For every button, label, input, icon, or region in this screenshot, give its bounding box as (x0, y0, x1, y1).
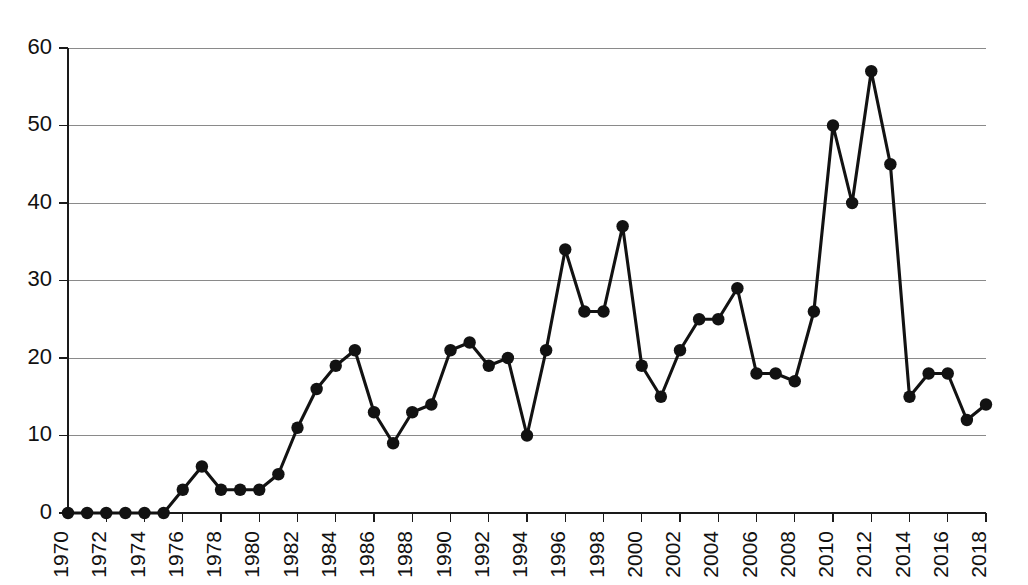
chart-canvas: 0102030405060 19701972197419761978198019… (0, 0, 1028, 585)
x-tick-label-1994: 1994 (508, 531, 531, 578)
data-point-1981 (272, 468, 284, 480)
x-tick-label-1986: 1986 (355, 531, 378, 578)
data-point-1989 (425, 398, 437, 410)
data-point-1992 (483, 360, 495, 372)
gridlines (68, 48, 986, 436)
data-point-1971 (81, 507, 93, 519)
x-tick-label-2000: 2000 (623, 531, 646, 578)
x-tick-label-1982: 1982 (279, 531, 302, 578)
data-point-2015 (922, 367, 934, 379)
y-axis (59, 48, 68, 513)
y-tick-label-60: 60 (28, 34, 52, 59)
data-point-1980 (253, 484, 265, 496)
x-tick-label-2006: 2006 (738, 531, 761, 578)
x-tick-label-1998: 1998 (585, 531, 608, 578)
x-tick-label-1980: 1980 (240, 531, 263, 578)
data-point-1983 (310, 383, 322, 395)
x-tick-label-2002: 2002 (661, 531, 684, 578)
x-tick-label-2012: 2012 (852, 531, 875, 578)
data-point-1978 (215, 484, 227, 496)
data-point-1988 (406, 406, 418, 418)
x-tick-label-2014: 2014 (891, 531, 914, 578)
data-point-1979 (234, 484, 246, 496)
data-points (62, 65, 992, 519)
data-point-1977 (196, 460, 208, 472)
data-point-2004 (712, 313, 724, 325)
data-point-2012 (865, 65, 877, 77)
y-tick-label-50: 50 (28, 111, 52, 136)
x-tick-label-1976: 1976 (164, 531, 187, 578)
data-point-2013 (884, 158, 896, 170)
y-tick-label-30: 30 (28, 266, 52, 291)
data-point-1972 (100, 507, 112, 519)
x-tick-label-2010: 2010 (814, 531, 837, 578)
y-tick-labels: 0102030405060 (28, 34, 52, 524)
data-point-1982 (291, 422, 303, 434)
x-tick-label-1990: 1990 (432, 531, 455, 578)
series-line (68, 71, 986, 513)
data-point-1991 (463, 336, 475, 348)
data-point-2018 (980, 398, 992, 410)
line-chart: 0102030405060 19701972197419761978198019… (0, 0, 1028, 585)
y-tick-label-0: 0 (40, 499, 52, 524)
data-point-1999 (616, 220, 628, 232)
x-tick-label-1974: 1974 (126, 531, 149, 578)
data-point-1993 (502, 352, 514, 364)
data-point-1975 (157, 507, 169, 519)
x-tick-labels: 1970197219741976197819801982198419861988… (49, 531, 990, 578)
data-point-1990 (444, 344, 456, 356)
data-point-2006 (750, 367, 762, 379)
data-point-2008 (789, 375, 801, 387)
x-tick-label-1988: 1988 (393, 531, 416, 578)
data-point-2014 (903, 391, 915, 403)
y-tick-label-20: 20 (28, 344, 52, 369)
data-point-2005 (731, 282, 743, 294)
data-point-2009 (808, 305, 820, 317)
data-point-2003 (693, 313, 705, 325)
x-axis (68, 513, 986, 522)
y-tick-label-40: 40 (28, 189, 52, 214)
data-point-2011 (846, 197, 858, 209)
x-tick-label-1978: 1978 (202, 531, 225, 578)
x-tick-label-1992: 1992 (470, 531, 493, 578)
data-point-2002 (674, 344, 686, 356)
x-tick-label-1970: 1970 (49, 531, 72, 578)
data-point-2010 (827, 119, 839, 131)
data-point-1984 (330, 360, 342, 372)
data-point-1974 (138, 507, 150, 519)
x-tick-label-1972: 1972 (87, 531, 110, 578)
x-tick-label-1996: 1996 (546, 531, 569, 578)
x-tick-label-2018: 2018 (967, 531, 990, 578)
data-point-1997 (578, 305, 590, 317)
data-point-1985 (349, 344, 361, 356)
data-point-1970 (62, 507, 74, 519)
x-tick-label-2008: 2008 (776, 531, 799, 578)
data-point-1986 (368, 406, 380, 418)
data-point-1994 (521, 429, 533, 441)
data-point-1987 (387, 437, 399, 449)
x-tick-label-2016: 2016 (929, 531, 952, 578)
data-point-2007 (769, 367, 781, 379)
data-point-2017 (961, 414, 973, 426)
data-series (68, 71, 986, 513)
x-tick-label-2004: 2004 (699, 531, 722, 578)
data-point-1996 (559, 243, 571, 255)
y-tick-label-10: 10 (28, 421, 52, 446)
data-point-1998 (597, 305, 609, 317)
x-tick-label-1984: 1984 (317, 531, 340, 578)
data-point-1976 (177, 484, 189, 496)
data-point-1973 (119, 507, 131, 519)
data-point-2016 (942, 367, 954, 379)
data-point-2000 (636, 360, 648, 372)
data-point-1995 (540, 344, 552, 356)
data-point-2001 (655, 391, 667, 403)
